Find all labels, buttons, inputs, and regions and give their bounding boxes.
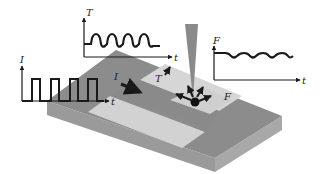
current-arrow-label: I bbox=[114, 72, 118, 82]
current-plot-x-label: t bbox=[111, 97, 115, 107]
temperature-plot bbox=[84, 18, 172, 57]
force-plot-y-label: F bbox=[213, 36, 220, 46]
temperature-plot-x-label: t bbox=[174, 53, 178, 63]
force-plot-x-label: t bbox=[302, 76, 306, 86]
temperature-plot-y-label: T bbox=[86, 8, 93, 18]
force-waveform bbox=[214, 53, 293, 58]
temperature-arrow-label: T bbox=[155, 74, 162, 84]
current-plot-y-label: I bbox=[20, 55, 24, 65]
force-plot bbox=[214, 46, 300, 80]
temperature-waveform bbox=[84, 34, 160, 47]
force-label: F bbox=[224, 92, 231, 102]
diagram-canvas: T t I t F t I T F bbox=[0, 0, 326, 174]
hotspot-dot bbox=[191, 98, 200, 107]
diagram-svg bbox=[0, 0, 326, 174]
